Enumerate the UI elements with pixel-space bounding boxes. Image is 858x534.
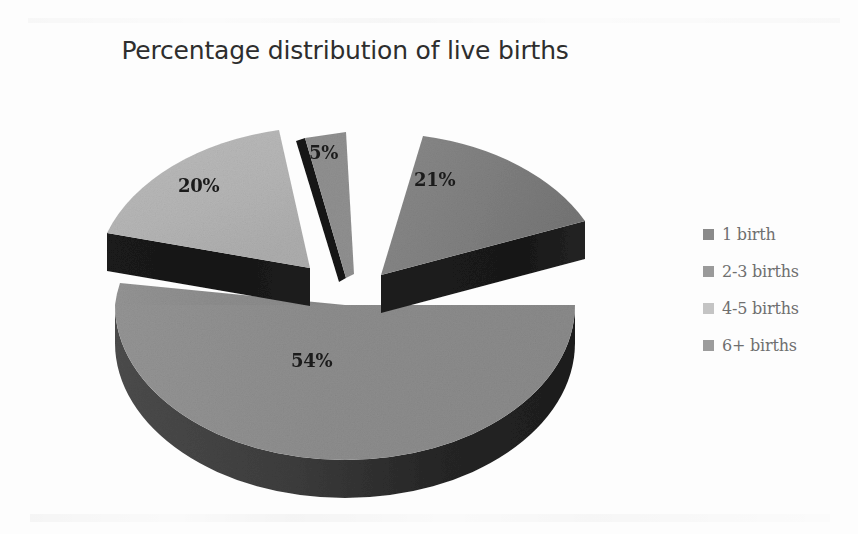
- pie-plot-area: 21% 54% 20% 5%: [0, 0, 690, 534]
- chart-canvas: Percentage distribution of live births: [0, 0, 858, 534]
- chart-legend: 1 birth 2-3 births 4-5 births 6+ births: [703, 216, 853, 364]
- legend-item-4-5-births[interactable]: 4-5 births: [703, 290, 853, 327]
- legend-label-2-3-births: 2-3 births: [722, 262, 799, 281]
- legend-label-1-birth: 1 birth: [722, 225, 776, 244]
- pie-slice-group-4-5-births: [107, 130, 310, 306]
- legend-swatch-icon-4-5-births: [703, 303, 714, 314]
- legend-item-1-birth[interactable]: 1 birth: [703, 216, 853, 253]
- legend-swatch-icon-6-births: [703, 340, 714, 351]
- legend-swatch-icon-2-3-births: [703, 266, 714, 277]
- legend-label-4-5-births: 4-5 births: [722, 299, 799, 318]
- pie-chart-graphic: [0, 0, 690, 534]
- legend-label-6-births: 6+ births: [722, 336, 797, 355]
- legend-item-6-births[interactable]: 6+ births: [703, 327, 853, 364]
- data-label-4-5-births: 20%: [178, 175, 219, 196]
- data-label-2-3-births: 54%: [291, 350, 332, 371]
- legend-swatch-icon-1-birth: [703, 229, 714, 240]
- scan-noise-bottom: [30, 514, 830, 522]
- data-label-6-births: 5%: [309, 142, 338, 163]
- pie-slice-group-1-birth: [381, 136, 585, 313]
- data-label-1-birth: 21%: [414, 169, 455, 190]
- legend-item-2-3-births[interactable]: 2-3 births: [703, 253, 853, 290]
